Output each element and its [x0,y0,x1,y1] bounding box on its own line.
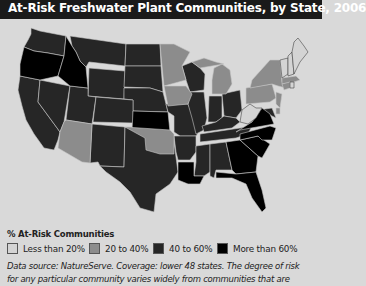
legend-swatch [217,243,228,254]
state-arizona [58,120,92,163]
state-new-mexico [90,124,125,167]
legend-swatch [89,243,100,254]
state-new-jersey [276,92,282,108]
state-north-dakota [125,44,161,66]
title-bar: At-Risk Freshwater Plant Communities, by… [0,0,322,19]
legend-swatch [153,243,164,254]
state-indiana [208,96,222,122]
legend-label: 40 to 60% [169,243,212,255]
source-note: Data source: NatureServe. Coverage: lowe… [7,260,322,286]
state-florida [216,172,266,212]
source-note-line-2: for any particular community varies wide… [7,273,322,286]
state-iowa [164,86,192,106]
state-colorado [93,97,133,123]
us-choropleth-map [0,22,322,232]
state-michigan [212,64,232,94]
state-maine [292,38,308,74]
legend-label: 20 to 40% [105,243,148,255]
source-note-line-1: Data source: NatureServe. Coverage: lowe… [7,260,322,273]
legend-title: % At-Risk Communities [7,229,114,239]
legend-label: Less than 20% [23,243,85,255]
state-rhode-island [290,82,294,88]
state-arkansas [174,136,196,160]
chart-title: At-Risk Freshwater Plant Communities, by… [8,1,366,15]
state-delaware [276,108,280,114]
legend-swatch [7,243,18,254]
state-wyoming [88,68,125,99]
legend-label: More than 60% [233,243,297,255]
state-mississippi [194,144,210,176]
